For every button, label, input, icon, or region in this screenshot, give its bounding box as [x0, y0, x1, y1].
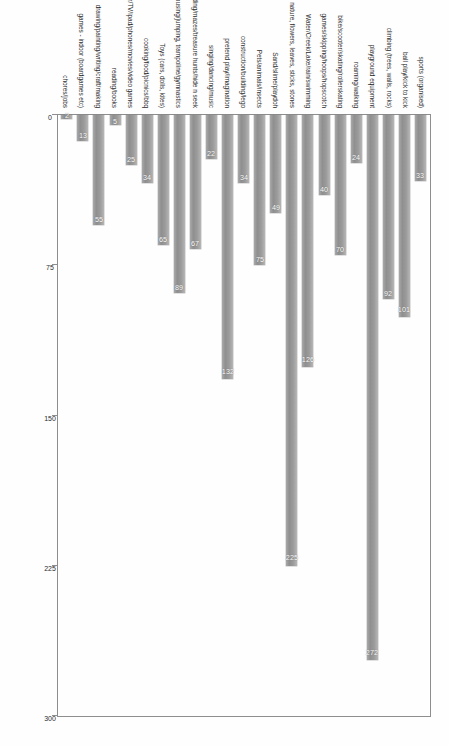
category-label-row: bike/scooter/skating/rollerskating: [334, 0, 347, 112]
category-label-row: sports (organised): [415, 0, 428, 112]
bar-value-label: 55: [95, 216, 103, 223]
bar-value-label: 40: [320, 186, 328, 193]
bar-row: 225: [285, 115, 298, 716]
bar-row: 13: [76, 115, 89, 716]
bar: 272: [367, 115, 378, 660]
category-label: Sand/slime/playdoh: [272, 52, 279, 108]
bar-row: 101: [398, 115, 411, 716]
axis-tick-label: 225: [44, 565, 56, 572]
category-label: chores/jobs: [62, 75, 69, 108]
bar-row: 70: [334, 115, 347, 716]
bar: 126: [302, 115, 313, 367]
bar-row: 49: [269, 115, 282, 716]
category-label: pretend play/imagination: [224, 38, 231, 108]
bar-value-label: 49: [272, 204, 280, 211]
category-label: sports (organised): [418, 56, 425, 108]
bar: 24: [351, 115, 362, 163]
bar-value-label: 67: [191, 240, 199, 247]
bar: 92: [383, 115, 394, 299]
category-label: roaming/walking: [353, 62, 360, 108]
category-label: nature, flowers, leaves, sticks, stones: [289, 2, 296, 108]
bar-row: 126: [301, 115, 314, 716]
bar-value-label: 89: [175, 284, 183, 291]
bar-value-label: 5: [113, 117, 117, 124]
category-label-row: reading/books: [108, 0, 121, 112]
category-label-row: games/skipping/hoops/hopscotch: [318, 0, 331, 112]
chart-page: sports (organised)ball play/kick to kick…: [0, 0, 449, 746]
axis-tick-label: 300: [44, 715, 56, 722]
bar: 5: [110, 115, 121, 125]
category-label-row: singing/dancing/music: [205, 0, 218, 112]
category-axis: sports (organised)ball play/kick to kick…: [57, 0, 431, 112]
axis-tick-label: 75: [46, 264, 54, 271]
bar: 49: [270, 115, 281, 213]
bar: 132: [222, 115, 233, 379]
category-label-row: computer/TV/ipad/phones/movies/video gam…: [124, 0, 137, 112]
bar: 25: [126, 115, 137, 165]
category-label: climbing (trees, walls, rocks): [386, 28, 393, 108]
bar-row: 132: [221, 115, 234, 716]
bar-value-label: 2: [65, 111, 69, 118]
bar: 13: [77, 115, 88, 141]
axis-tick: [52, 114, 57, 115]
bar-row: 75: [253, 115, 266, 716]
bar-value-label: 13: [79, 131, 87, 138]
bar-row: 2: [60, 115, 73, 716]
bar-value-label: 75: [256, 256, 264, 263]
category-label-row: cubbies/hiding/mazes/treasure hunts/hide…: [189, 0, 202, 112]
axis-tick-label: 0: [48, 114, 52, 121]
category-label-row: construction/building/lego: [237, 0, 250, 112]
bar-value-label: 92: [384, 290, 392, 297]
category-label-row: Sand/slime/playdoh: [269, 0, 282, 112]
bar-row: 92: [382, 115, 395, 716]
bar-value-label: 24: [352, 153, 360, 160]
category-label: games - indoor (boardgames etc): [78, 14, 85, 108]
category-label-row: climbing (trees, walls, rocks): [383, 0, 396, 112]
category-label: playground equipment: [369, 45, 376, 108]
category-label: cooking/food/picnics/bbq: [143, 38, 150, 108]
category-label: Pets/animals/insects: [256, 50, 263, 108]
bar-value-label: 70: [336, 246, 344, 253]
category-label-row: Running/chasey/rough housing/jumping, tr…: [172, 0, 185, 112]
category-label-row: nature, flowers, leaves, sticks, stones: [286, 0, 299, 112]
value-axis: 075150225300: [17, 114, 57, 717]
category-label-row: chores/jobs: [59, 0, 72, 112]
category-label: games/skipping/hoops/hopscotch: [321, 14, 328, 109]
bar: 70: [335, 115, 346, 255]
bar-row: 89: [173, 115, 186, 716]
bar: 33: [415, 115, 426, 181]
bar: 101: [399, 115, 410, 317]
category-label-row: ball play/kick to kick: [399, 0, 412, 112]
bar-value-label: 225: [286, 554, 298, 561]
bar-row: 5: [109, 115, 122, 716]
bar-row: 22: [205, 115, 218, 716]
bar: 67: [190, 115, 201, 249]
bar: 2: [61, 115, 72, 119]
bar: 34: [238, 115, 249, 183]
bar-value-label: 101: [398, 306, 410, 313]
bar-value-label: 65: [159, 236, 167, 243]
category-label: computer/TV/ipad/phones/movies/video gam…: [127, 0, 134, 108]
category-label: drawing/painting/writing/craft/making: [95, 5, 102, 108]
category-label-row: games - indoor (boardgames etc): [75, 0, 88, 112]
bar-value-label: 25: [127, 155, 135, 162]
bar-value-label: 132: [221, 368, 233, 375]
bar-value-label: 22: [207, 149, 215, 156]
category-label: Running/chasey/rough housing/jumping, tr…: [175, 0, 182, 108]
plot-area: 3310192272247040126225497534132226789653…: [57, 114, 431, 717]
bar: 225: [286, 115, 297, 566]
bar-row: 24: [350, 115, 363, 716]
bar: 22: [206, 115, 217, 159]
bar-value-label: 34: [240, 174, 248, 181]
category-label: ball play/kick to kick: [402, 52, 409, 108]
axis-tick-label: 150: [44, 415, 56, 422]
bar-value-label: 126: [302, 356, 314, 363]
category-label: Toys (cars, dolls, kites): [159, 43, 166, 108]
bar-row: 34: [237, 115, 250, 716]
category-label-row: Pets/animals/insects: [253, 0, 266, 112]
bar-row: 40: [318, 115, 331, 716]
bar-value-label: 272: [366, 648, 378, 655]
bar-row: 25: [125, 115, 138, 716]
bar: 40: [319, 115, 330, 195]
category-label: Water/Creek/Lake/rain/swimming: [305, 14, 312, 108]
